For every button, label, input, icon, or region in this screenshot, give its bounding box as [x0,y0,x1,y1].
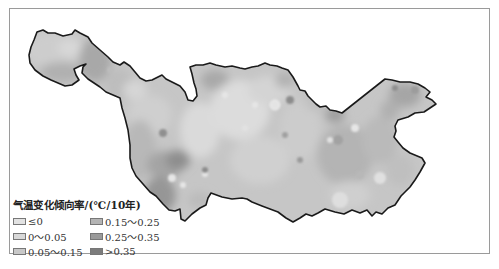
legend-swatch [13,218,26,225]
legend-swatch [90,218,103,225]
legend-item: 0.15～0.25 [90,215,170,228]
legend-title: 气温变化倾向率/(℃/10年) [13,197,173,212]
legend-item: 0.05～0.15 [13,245,90,258]
legend-label: 0.15～0.25 [105,214,160,229]
legend-swatch [90,233,103,240]
legend-label: 0.05～0.15 [28,244,83,259]
legend-swatch [13,233,26,240]
legend-item: >0.35 [90,245,170,258]
legend-item: 0.25～0.35 [90,230,170,243]
legend-label: ≤0 [28,216,43,227]
legend-label: 0～0.05 [28,229,67,244]
legend-item: 0～0.05 [13,230,90,243]
legend-swatch [13,248,26,255]
legend-label: >0.35 [105,246,136,257]
legend: 气温变化倾向率/(℃/10年) ≤0 0.15～0.25 0～0.05 0.25… [13,197,173,258]
legend-swatch [90,248,103,255]
legend-label: 0.25～0.35 [105,229,160,244]
legend-items: ≤0 0.15～0.25 0～0.05 0.25～0.35 0.05～0.15 … [13,215,173,258]
legend-item: ≤0 [13,215,90,228]
